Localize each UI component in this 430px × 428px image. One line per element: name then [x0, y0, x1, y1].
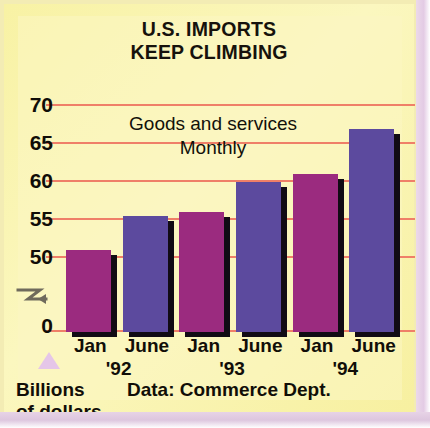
bar[interactable]	[236, 182, 281, 332]
x-axis-label: Jan	[289, 335, 346, 357]
ytick-dash-right-65	[402, 142, 415, 144]
frame-edge-right	[416, 0, 430, 428]
chart-title-line-1: U.S. IMPORTS	[4, 18, 414, 41]
bar-slot	[66, 250, 111, 332]
ytick-label-70: 70	[30, 93, 53, 117]
chart-title: U.S. IMPORTS KEEP CLIMBING	[4, 18, 414, 64]
bar[interactable]	[179, 212, 224, 332]
x-axis-year-label: '93	[175, 358, 288, 380]
bar-series	[62, 104, 402, 332]
frame-edge-bottom	[0, 412, 430, 428]
ytick-label-65: 65	[30, 131, 53, 155]
source-label: Data: Commerce Dept.	[127, 379, 331, 401]
bar-slot	[349, 129, 394, 332]
ytick-dash-right-55	[402, 218, 415, 220]
bar[interactable]	[66, 250, 111, 332]
unit-label-line-1: Billions	[16, 379, 102, 401]
bar[interactable]	[293, 174, 338, 332]
bar[interactable]	[349, 129, 394, 332]
x-axis: JanJuneJanJuneJanJune'92'93'94	[62, 335, 402, 381]
plot-area: 70 65 60 55 50 0	[62, 104, 402, 332]
ytick-label-50: 50	[30, 245, 53, 269]
chart-title-line-2: KEEP CLIMBING	[4, 41, 414, 64]
x-axis-label: June	[119, 335, 176, 357]
x-axis-label: June	[345, 335, 402, 357]
x-axis-year-label: '94	[289, 358, 402, 380]
ytick-dash-right-70	[402, 104, 415, 106]
ytick-label-60: 60	[30, 169, 53, 193]
ytick-dash-right-60	[402, 180, 415, 182]
x-axis-label: Jan	[62, 335, 119, 357]
bar-slot	[179, 212, 224, 332]
ytick-dash-right-0	[402, 330, 415, 332]
x-axis-label: June	[232, 335, 289, 357]
bar-slot	[236, 182, 281, 332]
axis-break-icon	[16, 286, 48, 308]
x-axis-label: Jan	[175, 335, 232, 357]
bar[interactable]	[123, 216, 168, 332]
decorative-triangle-icon	[38, 352, 60, 369]
chart-sheet: U.S. IMPORTS KEEP CLIMBING 70 65 60 55	[4, 4, 414, 412]
bar-slot	[293, 174, 338, 332]
ytick-label-55: 55	[30, 207, 53, 231]
bar-slot	[123, 216, 168, 332]
ytick-label-0: 0	[41, 314, 53, 338]
chart-card: U.S. IMPORTS KEEP CLIMBING 70 65 60 55	[0, 0, 430, 428]
ytick-dash-right-50	[402, 256, 415, 258]
x-axis-year-label: '92	[62, 358, 175, 380]
